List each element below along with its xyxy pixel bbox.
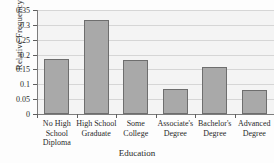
y-axis-tick-mark <box>33 99 37 100</box>
y-axis-tick-mark <box>33 10 37 11</box>
bar <box>123 60 148 114</box>
gridline <box>38 55 274 56</box>
y-axis-tick-label: 0.3 <box>0 20 30 29</box>
bar <box>84 20 109 114</box>
x-axis-tick-mark <box>156 114 157 118</box>
x-axis-title: Education <box>0 148 274 158</box>
x-axis-tick-mark <box>195 114 196 118</box>
y-axis-tick-label: 0.35 <box>0 6 30 15</box>
bar <box>202 67 227 114</box>
y-axis-tick-mark <box>33 55 37 56</box>
gridline <box>38 84 274 85</box>
x-axis-tick-mark <box>37 114 38 118</box>
y-axis-tick-label: 0 <box>0 110 30 119</box>
gridline <box>38 99 274 100</box>
y-axis-tick-label: 0.2 <box>0 50 30 59</box>
gridline <box>38 40 274 41</box>
y-axis-tick-label: 0.25 <box>0 35 30 44</box>
gridline <box>38 69 274 70</box>
x-axis-tick-mark <box>235 114 236 118</box>
y-axis-tick-mark <box>33 40 37 41</box>
x-axis-category-line: Advanced <box>229 119 275 129</box>
gridline <box>38 25 274 26</box>
x-axis-tick-mark <box>77 114 78 118</box>
plot-area <box>37 10 274 114</box>
y-axis-tick-label: 0.1 <box>0 80 30 89</box>
bar <box>163 89 188 114</box>
bar <box>44 59 69 114</box>
plot-inner <box>38 10 274 114</box>
y-axis-tick-label: 0.15 <box>0 65 30 74</box>
y-axis-tick-mark <box>33 69 37 70</box>
y-axis-tick-label: 0.05 <box>0 95 30 104</box>
y-axis-tick-mark <box>33 25 37 26</box>
bar <box>242 90 267 114</box>
x-axis-category-label: AdvancedDegree <box>229 119 275 138</box>
y-axis-tick-mark <box>33 84 37 85</box>
x-axis-tick-mark <box>116 114 117 118</box>
x-axis-category-line: Degree <box>229 129 275 139</box>
gridline <box>38 10 274 11</box>
chart-screenshot: Relative Frequencies of Education Relati… <box>0 0 274 163</box>
x-axis-category-line: Diploma <box>31 138 83 148</box>
